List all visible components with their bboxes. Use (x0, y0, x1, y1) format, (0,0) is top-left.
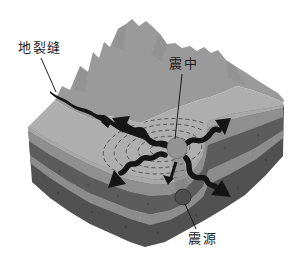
epicenter-dot (167, 138, 187, 159)
hypocenter-dot (175, 189, 191, 205)
fissure-leader-line (41, 58, 56, 92)
earthquake-diagram-canvas: 地裂缝 震中 震源 (0, 0, 299, 275)
earthquake-diagram: 地裂缝 震中 震源 (0, 0, 299, 275)
epicenter-label: 震中 (169, 56, 198, 71)
ground-fissure-label: 地裂缝 (18, 40, 62, 55)
hypocenter-label: 震源 (188, 231, 217, 246)
